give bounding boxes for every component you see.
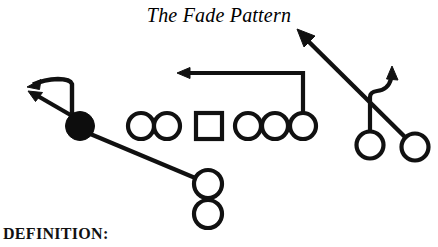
route-flanker-fade-path — [305, 38, 406, 138]
route-slot-hook — [370, 66, 398, 132]
route-slot-hook-arrowhead — [387, 66, 399, 80]
football-play-diagram — [0, 0, 438, 247]
player-tight-end — [290, 113, 316, 139]
route-tight-end-drag-path — [185, 73, 303, 113]
route-split-end-curl-arrowhead — [27, 80, 41, 90]
player-quarterback — [194, 170, 222, 198]
play-diagram-page: The Fade Pattern — [0, 0, 438, 247]
route-tight-end-drag — [177, 68, 303, 114]
player-flanker — [402, 134, 429, 161]
player-right-guard — [235, 113, 261, 139]
player-left-guard — [154, 113, 180, 139]
player-center — [196, 113, 222, 139]
player-right-tackle — [262, 113, 288, 139]
player-split-end — [66, 112, 95, 141]
route-tight-end-drag-arrowhead — [177, 68, 190, 79]
route-split-end-fade — [28, 91, 74, 117]
player-slot-receiver — [357, 132, 384, 159]
player-running-back — [194, 200, 222, 228]
player-left-tackle — [128, 113, 154, 139]
definition-label: DEFINITION: — [3, 224, 109, 244]
route-split-end-fade-path — [36, 95, 74, 117]
